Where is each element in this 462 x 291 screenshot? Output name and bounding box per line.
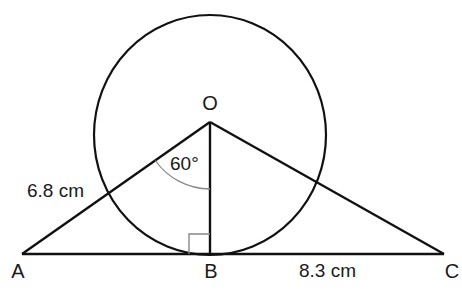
geometry-diagram: O A B C 60° 6.8 cm 8.3 cm [0, 0, 462, 291]
angle-label: 60° [170, 153, 199, 174]
measure-OA: 6.8 cm [27, 180, 84, 201]
measure-BC: 8.3 cm [299, 260, 356, 281]
label-O: O [202, 92, 218, 114]
line-OC [210, 122, 444, 254]
label-C: C [445, 260, 459, 282]
label-A: A [11, 260, 25, 282]
label-B: B [204, 260, 217, 282]
right-angle-marker [189, 234, 210, 254]
